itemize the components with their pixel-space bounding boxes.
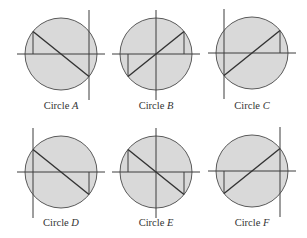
label-prefix: Circle [139,217,167,228]
label-prefix: Circle [139,100,167,111]
circle-figure-e: Circle E [112,128,200,228]
circle-label: Circle F [235,217,270,228]
circle-figure-c: Circle C [208,9,296,111]
label-prefix: Circle [235,217,263,228]
circle-label: Circle A [44,100,79,111]
circle-label: Circle C [234,100,270,111]
label-letter: F [262,217,270,228]
label-letter: D [70,217,79,228]
circle-label: Circle E [139,217,174,228]
circle-figure-d: Circle D [17,128,105,228]
circles-diagram: Circle ACircle BCircle CCircle DCircle E… [0,0,307,238]
label-prefix: Circle [44,100,72,111]
label-prefix: Circle [43,217,71,228]
circle-label: Circle B [139,100,174,111]
label-letter: C [263,100,271,111]
circle-figure-a: Circle A [17,10,105,111]
circle-figure-b: Circle B [112,10,200,111]
circle-label: Circle D [43,217,79,228]
label-letter: B [167,100,174,111]
circle-figure-f: Circle F [208,127,296,228]
circles-layer: Circle ACircle BCircle CCircle DCircle E… [17,9,296,228]
label-prefix: Circle [234,100,262,111]
label-letter: E [166,217,174,228]
label-letter: A [71,100,79,111]
